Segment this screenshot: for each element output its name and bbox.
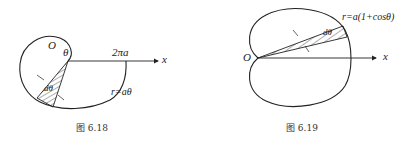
hatched-sector	[258, 26, 347, 58]
axis-label: x	[162, 54, 167, 65]
dtheta-label: dθ	[44, 84, 53, 93]
origin-label: O	[48, 40, 56, 51]
equation-label: r=a(1+cosθ)	[342, 12, 394, 22]
equation-label: r=aθ	[111, 87, 132, 97]
spiral-diagram	[0, 0, 204, 141]
spiral-curve	[20, 36, 126, 108]
angle-label: θ	[63, 47, 68, 58]
origin-label: O	[243, 52, 251, 63]
cardioid-curve	[249, 9, 351, 107]
figure-caption: 图 6.18	[76, 124, 108, 133]
figure-caption: 图 6.19	[286, 124, 318, 133]
axis-label: x	[383, 51, 388, 62]
endpoint-label: 2πa	[112, 47, 129, 58]
dtheta-label: dθ	[323, 28, 332, 37]
